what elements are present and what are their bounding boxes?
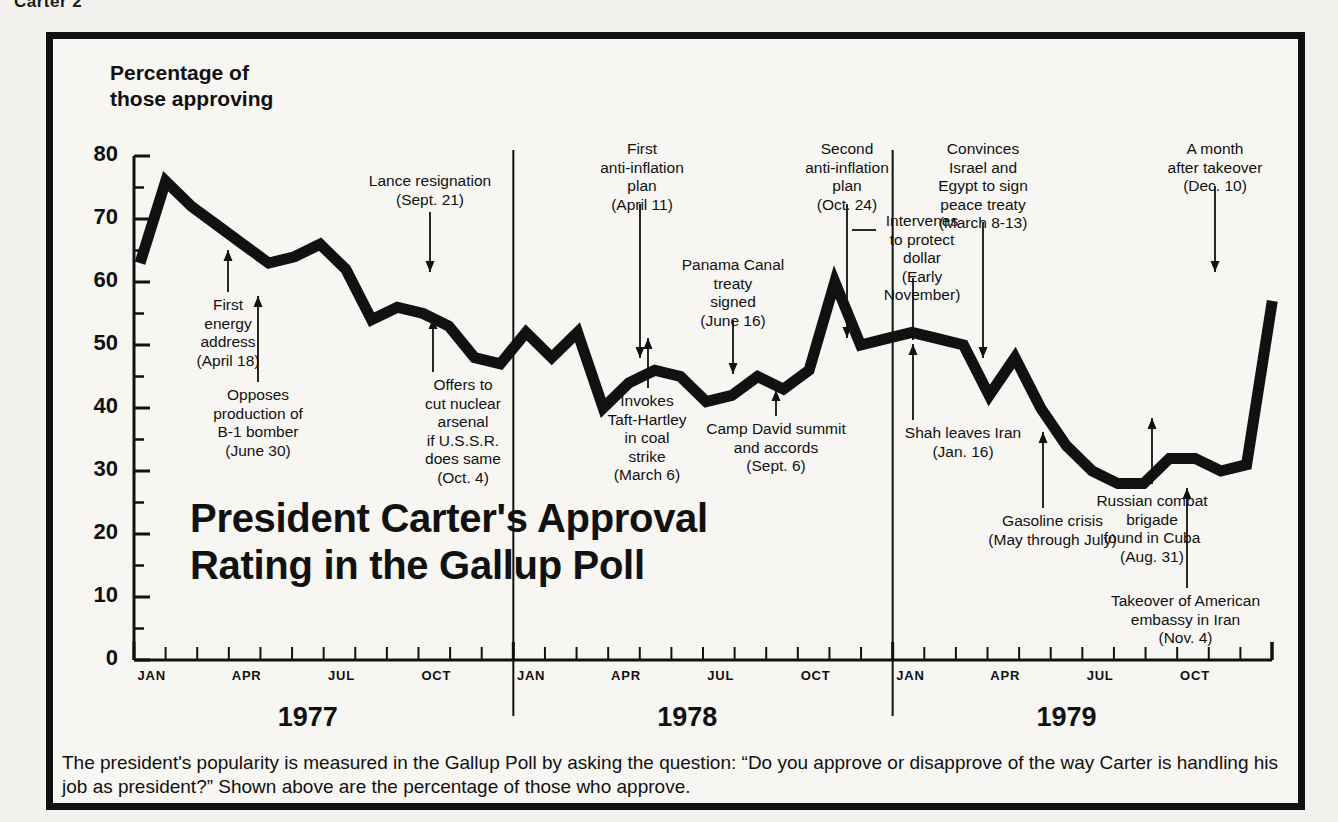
y-tick-80: 80 — [76, 141, 118, 167]
annotation-first-energy-address: First energy address (April 18) — [168, 296, 288, 370]
running-head: Carter 2 — [14, 0, 82, 12]
y-tick-20: 20 — [76, 519, 118, 545]
y-tick-40: 40 — [76, 393, 118, 419]
x-tick-label: OCT — [786, 668, 846, 683]
y-tick-70: 70 — [76, 204, 118, 230]
annotation-a-month-after-takeover: A month after takeover (Dec. 10) — [1140, 140, 1290, 196]
annotation-second-anti-inflation-plan: Second anti-inflation plan (Oct. 24) — [772, 140, 922, 214]
y-tick-50: 50 — [76, 330, 118, 356]
annotation-offers-cut-nuclear-arsenal: Offers to cut nuclear arsenal if U.S.S.R… — [398, 376, 528, 487]
x-tick-label: JUL — [311, 668, 371, 683]
annotation-lance-resignation: Lance resignation (Sept. 21) — [330, 172, 530, 209]
x-tick-label: JUL — [691, 668, 751, 683]
x-tick-label: JAN — [501, 668, 561, 683]
y-tick-30: 30 — [76, 456, 118, 482]
annotation-camp-david-summit: Camp David summit and accords (Sept. 6) — [676, 420, 876, 476]
x-tick-label: APR — [217, 668, 277, 683]
annotation-panama-canal-treaty: Panama Canal treaty signed (June 16) — [648, 256, 818, 330]
y-tick-0: 0 — [76, 645, 118, 671]
figure-caption: The president's popularity is measured i… — [62, 751, 1282, 799]
x-tick-label: OCT — [406, 668, 466, 683]
y-tick-60: 60 — [76, 267, 118, 293]
x-tick-label: APR — [975, 668, 1035, 683]
annotation-takeover-american-embassy: Takeover of American embassy in Iran (No… — [1098, 592, 1273, 648]
chart-headline: President Carter's Approval Rating in th… — [190, 495, 708, 589]
x-axis-year-1977: 1977 — [238, 702, 378, 733]
x-tick-label: JAN — [880, 668, 940, 683]
x-tick-label: APR — [596, 668, 656, 683]
annotation-convinces-israel-egypt: Convinces Israel and Egypt to sign peace… — [908, 140, 1058, 233]
x-tick-label: JUL — [1070, 668, 1130, 683]
x-tick-label: JAN — [122, 668, 182, 683]
x-tick-label: OCT — [1165, 668, 1225, 683]
x-axis-year-1978: 1978 — [617, 702, 757, 733]
x-axis-year-1979: 1979 — [997, 702, 1137, 733]
annotation-russian-combat-brigade: Russian combat brigade found in Cuba (Au… — [1072, 492, 1232, 566]
y-tick-10: 10 — [76, 582, 118, 608]
y-axis-title: Percentage of those approving — [110, 60, 273, 112]
annotation-shah-leaves-iran: Shah leaves Iran (Jan. 16) — [888, 424, 1038, 461]
page-root: Carter 2 Jimmy Carter Runner-Up: October… — [0, 0, 1338, 822]
annotation-opposes-b1-bomber: Opposes production of B-1 bomber (June 3… — [178, 386, 338, 460]
annotation-first-anti-inflation-plan: First anti-inflation plan (April 11) — [572, 140, 712, 214]
